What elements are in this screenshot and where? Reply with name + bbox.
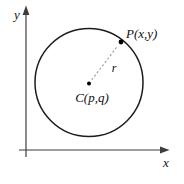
y-axis-label: y bbox=[12, 7, 20, 22]
center-label: C(p,q) bbox=[75, 90, 109, 105]
center-dot bbox=[87, 82, 91, 86]
circle-diagram: y x P(x,y) r C(p,q) bbox=[0, 0, 184, 184]
point-label: P(x,y) bbox=[125, 26, 157, 41]
y-axis-arrow-icon bbox=[23, 6, 30, 16]
x-axis-arrow-icon bbox=[160, 147, 170, 154]
x-axis-label: x bbox=[162, 155, 169, 170]
point-dot bbox=[119, 40, 124, 45]
radius-label: r bbox=[112, 61, 117, 75]
figure-canvas: y x P(x,y) r C(p,q) bbox=[0, 0, 184, 184]
